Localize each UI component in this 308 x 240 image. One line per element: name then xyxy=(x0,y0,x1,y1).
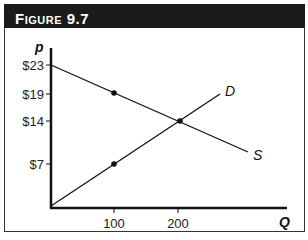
curve-s-label: S xyxy=(253,147,263,163)
x-axis-label: Q xyxy=(279,214,290,230)
y-tick-14: $14 xyxy=(22,114,44,129)
y-tick-23: $23 xyxy=(22,58,44,73)
supply-demand-chart: $23 $19 $14 $7 100 200 p Q D S xyxy=(0,0,308,240)
equilibrium-point xyxy=(177,118,183,124)
x-tick-200: 200 xyxy=(167,216,189,231)
y-tick-19: $19 xyxy=(22,87,44,102)
point-s-100 xyxy=(111,90,117,96)
curve-s xyxy=(51,65,248,152)
curve-d xyxy=(51,94,220,206)
y-tick-7: $7 xyxy=(30,157,44,172)
x-tick-100: 100 xyxy=(103,216,125,231)
y-axis-label: p xyxy=(34,39,44,55)
point-d-100 xyxy=(111,161,117,167)
curve-d-label: D xyxy=(225,83,235,99)
